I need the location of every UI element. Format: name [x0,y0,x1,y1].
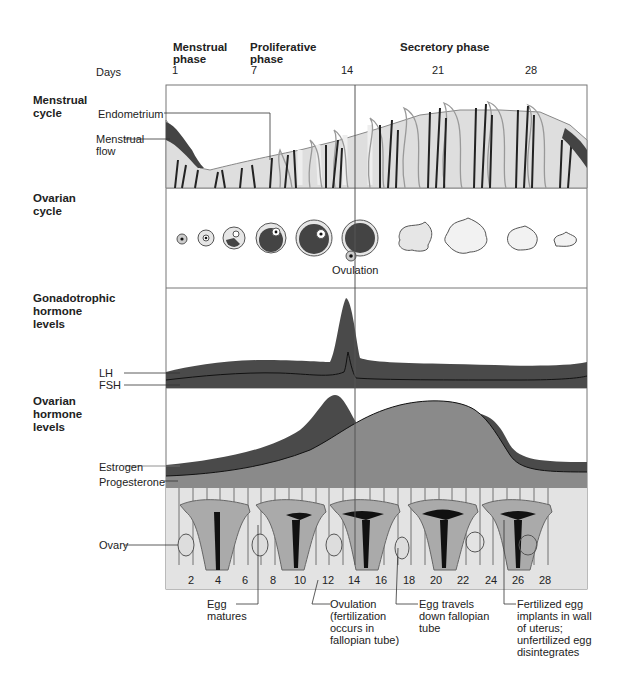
strip-day-20: 20 [430,574,442,586]
menstrual-cycle-diagram [0,0,617,689]
phase-label-menstrual: Menstrual phase [173,41,227,65]
strip-day-22: 22 [457,574,469,586]
follicle-sequence [177,218,576,261]
progesterone-label: Progesterone [99,476,165,488]
callout-egg-matures: Egg matures [207,598,247,622]
strip-day-14: 14 [348,574,360,586]
strip-day-24: 24 [485,574,497,586]
day-tick-21: 21 [432,64,444,76]
strip-day-4: 4 [215,574,221,586]
gonadotropic-title: Gonadotrophic hormone levels [33,292,115,331]
menstrual-flow-label: Menstrual flow [96,133,144,157]
strip-day-2: 2 [188,574,194,586]
strip-day-6: 6 [242,574,248,586]
day-tick-1: 1 [172,64,178,76]
fsh-label: FSH [99,379,121,391]
menstrual-cycle-title: Menstrual cycle [33,94,87,120]
days-label: Days [96,66,121,78]
day-tick-28: 28 [525,64,537,76]
endometrium-label: Endometrium [98,108,163,120]
strip-day-10: 10 [294,574,306,586]
callout-ovulation: Ovulation (fertilization occurs in fallo… [330,598,399,646]
strip-day-16: 16 [375,574,387,586]
estrogen-label: Estrogen [99,461,143,473]
lh-label: LH [99,367,113,379]
callout-egg-travels: Egg travels down fallopian tube [419,598,489,634]
strip-day-28: 28 [539,574,551,586]
ovarian-hormone-title: Ovarian hormone levels [33,395,82,434]
day-tick-14: 14 [341,64,353,76]
strip-day-18: 18 [403,574,415,586]
strip-day-8: 8 [270,574,276,586]
phase-label-proliferative: Proliferative phase [250,41,316,65]
strip-day-12: 12 [322,574,334,586]
day-tick-7: 7 [251,64,257,76]
ovary-label: Ovary [99,539,128,551]
callout-fertilized-egg: Fertilized egg implants in wall of uteru… [517,598,592,658]
phase-label-secretory: Secretory phase [400,41,490,53]
ovulation-label: Ovulation [332,264,378,276]
ovarian-cycle-title: Ovarian cycle [33,192,76,218]
strip-day-26: 26 [512,574,524,586]
